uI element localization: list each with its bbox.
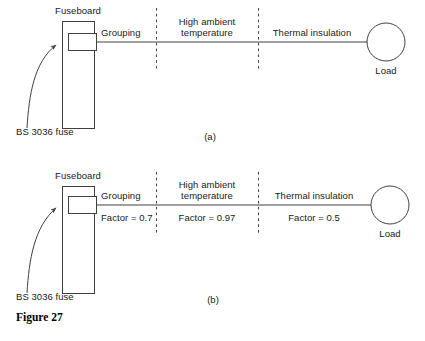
fuse-callout-label-a: BS 3036 fuse: [16, 126, 74, 137]
fuseboard-label-a: Fuseboard: [55, 5, 101, 16]
figure-27-diagram: Fuseboard Grouping High ambient temperat…: [0, 0, 425, 341]
zone-factor-high-ambient-temperature-b: Factor = 0.97: [179, 212, 236, 223]
zone-factor-thermal-insulation-b: Factor = 0.5: [288, 212, 340, 223]
load-circle-a: [367, 23, 405, 61]
figure-caption: Figure 27: [16, 311, 63, 323]
zone-label-high-ambient-temperature-a: High ambient temperature: [159, 16, 255, 38]
load-circle-b: [371, 186, 409, 224]
zone-label-thermal-insulation-a: Thermal insulation: [273, 27, 352, 38]
load-label-b: Load: [379, 228, 400, 239]
zone-label-grouping-a: Grouping: [101, 27, 140, 38]
fuse-callout-label-b: BS 3036 fuse: [16, 291, 74, 302]
fuse-rect-a: [69, 34, 97, 51]
panel-sublabel-b: (b): [207, 294, 219, 305]
fuse-callout-arrow-a: [27, 45, 56, 128]
panel-sublabel-a: (a): [204, 131, 216, 142]
fuse-callout-arrow-b: [27, 208, 56, 293]
zone-factor-grouping-b: Factor = 0.7: [101, 212, 153, 223]
load-label-a: Load: [375, 65, 396, 76]
zone-label-high-ambient-temperature-b: High ambient temperature: [159, 179, 255, 201]
fuseboard-label-b: Fuseboard: [55, 170, 101, 181]
fuse-rect-b: [69, 197, 97, 214]
zone-label-thermal-insulation-b: Thermal insulation: [275, 190, 354, 201]
zone-label-grouping-b: Grouping: [101, 190, 140, 201]
